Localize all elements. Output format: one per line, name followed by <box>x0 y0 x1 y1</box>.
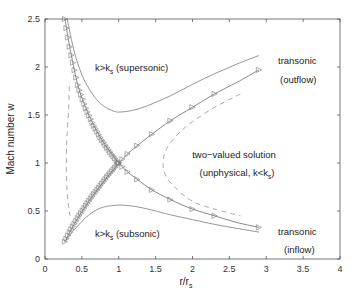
plot-series <box>62 16 261 244</box>
y-axis-label: Mach number w <box>5 103 16 175</box>
annotation-transonic-outflow-1: transonic <box>278 55 317 66</box>
x-tick-label: 3.5 <box>297 264 310 274</box>
x-tick-label: 2 <box>190 264 195 274</box>
annotation-two-valued-1: two−valued solution <box>192 149 276 160</box>
annotation-supersonic: k>ks (supersonic) <box>95 62 168 75</box>
x-tick-label: 1 <box>116 264 121 274</box>
annotation-transonic-outflow-2: (outflow) <box>280 74 316 85</box>
y-tick-label: 2.5 <box>27 14 40 24</box>
x-tick-label: 0.5 <box>76 264 89 274</box>
annotation-transonic-inflow-2: (inflow) <box>284 244 315 255</box>
series-line-4 <box>66 86 70 216</box>
x-tick-label: 4 <box>337 264 342 274</box>
y-tick-label: 0 <box>35 254 40 264</box>
y-tick-label: 1 <box>35 158 40 168</box>
annotation-transonic-inflow-1: transonic <box>278 226 317 237</box>
chart: 00.511.522.533.5400.511.522.5 Mach numbe… <box>0 0 356 303</box>
series-line-3 <box>65 205 259 242</box>
x-tick-label: 1.5 <box>149 264 162 274</box>
y-tick-label: 1.5 <box>27 110 40 120</box>
y-tick-label: 2 <box>35 62 40 72</box>
x-tick-label: 0 <box>42 264 47 274</box>
annotation-two-valued-2: (unphysical, k<ks) <box>200 167 275 180</box>
y-tick-label: 0.5 <box>27 206 40 216</box>
annotation-subsonic: k>ks (subsonic) <box>95 228 160 241</box>
x-tick-label: 3 <box>264 264 269 274</box>
x-axis-label: r/rs <box>180 276 193 289</box>
x-tick-label: 2.5 <box>223 264 236 274</box>
